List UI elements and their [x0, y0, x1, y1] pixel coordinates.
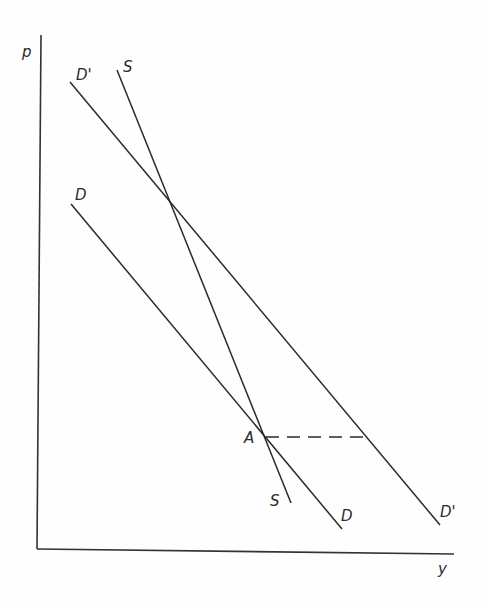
supply-label-top: S — [123, 58, 133, 76]
quantity-axis-label: y — [437, 560, 448, 578]
diagram-svg: p y D' D' S S D D A — [0, 0, 484, 607]
demand-label-bottom: D — [341, 507, 353, 525]
demand-label-top: D — [75, 186, 87, 204]
demand-curve-shifted — [70, 82, 440, 525]
supply-demand-diagram: p y D' D' S S D D A — [0, 0, 484, 607]
quantity-axis — [37, 549, 454, 554]
equilibrium-point-label: A — [243, 429, 254, 447]
price-axis — [37, 35, 41, 549]
price-axis-label: p — [21, 43, 32, 61]
demand-curve — [71, 204, 342, 529]
demand-shifted-label-top: D' — [76, 66, 92, 84]
supply-curve — [117, 70, 291, 503]
demand-shifted-label-bottom: D' — [440, 503, 456, 521]
supply-label-bottom: S — [270, 492, 280, 510]
